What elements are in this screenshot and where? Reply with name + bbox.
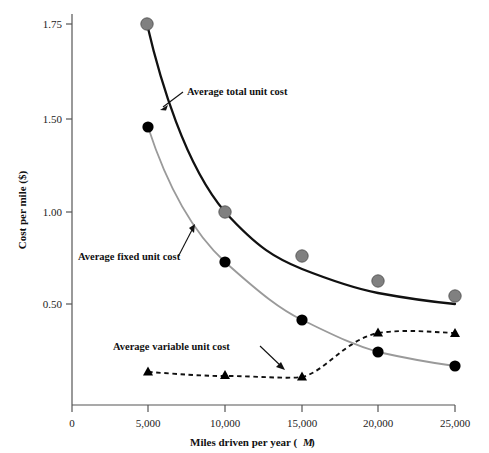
y-tick-label-100: 1.00	[43, 206, 63, 218]
x-tick-label-0: 0	[69, 417, 75, 429]
x-axis-title-end: )	[311, 436, 315, 449]
y-axis-ticks	[66, 24, 72, 304]
data-point-marker	[296, 250, 308, 262]
annotation-label-fixed: Average fixed unit cost	[78, 251, 181, 262]
series-average-variable-unit-cost	[143, 328, 460, 381]
y-axis-tick-labels: 1.75 1.50 1.00 0.50	[43, 18, 63, 310]
annotation-average-fixed-unit-cost: Average fixed unit cost	[78, 224, 195, 262]
y-tick-label-175: 1.75	[43, 18, 63, 30]
x-tick-label-5000: 5,000	[136, 417, 161, 429]
y-axis-title: Cost per mile ($)	[16, 171, 29, 250]
data-point-marker	[372, 275, 384, 287]
y-tick-label-050: 0.50	[43, 298, 63, 310]
series-average-fixed-unit-cost	[142, 121, 460, 371]
data-point-marker	[141, 18, 153, 30]
annotation-average-variable-unit-cost: Average variable unit cost	[113, 341, 285, 370]
x-axis-title: Miles driven per year ( M )	[190, 436, 315, 449]
figure-container: 1.75 1.50 1.00 0.50 0 5,000 10,000 15,00…	[0, 0, 489, 453]
data-point-marker	[142, 121, 153, 132]
data-point-marker	[296, 314, 307, 325]
x-axis-title-main: Miles driven per year (	[190, 436, 297, 449]
annotation-label-variable: Average variable unit cost	[113, 341, 230, 352]
series-average-total-unit-cost	[141, 18, 461, 304]
data-point-marker	[143, 367, 153, 376]
data-point-marker	[449, 290, 461, 302]
x-axis-ticks	[72, 405, 455, 412]
x-tick-label-20000: 20,000	[363, 417, 394, 429]
data-point-marker	[219, 206, 231, 218]
data-point-marker	[372, 346, 383, 357]
data-point-marker	[449, 360, 460, 371]
data-point-marker	[220, 370, 230, 379]
annotation-label-total: Average total unit cost	[187, 86, 288, 97]
x-axis-tick-labels: 0 5,000 10,000 15,000 20,000 25,000	[69, 417, 470, 429]
arrow-head-icon	[189, 224, 195, 233]
y-tick-label-150: 1.50	[43, 113, 63, 125]
cost-per-mile-chart: 1.75 1.50 1.00 0.50 0 5,000 10,000 15,00…	[0, 0, 489, 453]
x-tick-label-15000: 15,000	[287, 417, 318, 429]
x-tick-label-10000: 10,000	[210, 417, 241, 429]
annotation-average-total-unit-cost: Average total unit cost	[160, 86, 288, 111]
data-point-marker	[219, 256, 230, 267]
x-tick-label-25000: 25,000	[440, 417, 471, 429]
